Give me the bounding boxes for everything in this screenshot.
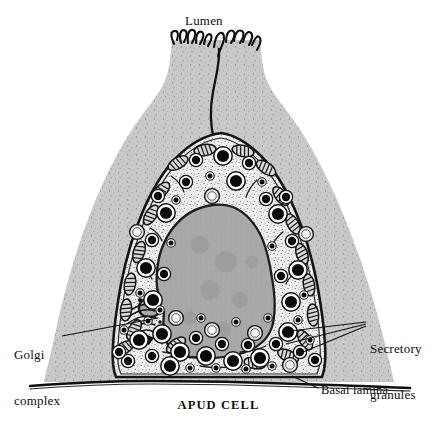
golgi-complex-label-line1: Golgi xyxy=(14,347,60,362)
secretory-granules-label-line1: Secretory xyxy=(370,341,422,356)
figure-caption: APUD CELL xyxy=(0,398,437,413)
basal-lamina-label: Basal lamina xyxy=(321,383,388,398)
apud-cell-figure: Lumen Golgi complex Secretory granules B… xyxy=(0,0,437,421)
lumen-label: Lumen xyxy=(185,13,223,28)
